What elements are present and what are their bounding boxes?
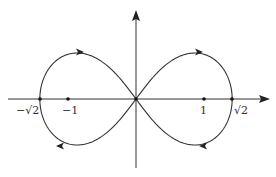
label-pos-sqrt2: √2 <box>234 104 248 117</box>
left-loop-bottom-arrow-icon <box>56 143 64 150</box>
point-neg-one <box>66 97 70 101</box>
label-neg-sqrt2: −√2 <box>16 104 39 117</box>
point-pos-one <box>202 97 206 101</box>
left-loop-top-arrow-icon <box>76 49 84 56</box>
point-origin <box>134 97 138 101</box>
label-neg-one: −1 <box>62 104 78 117</box>
right-loop-top-arrow-icon <box>195 49 203 56</box>
point-pos-sqrt2 <box>230 97 234 101</box>
point-neg-sqrt2 <box>38 97 42 101</box>
label-pos-one: 1 <box>200 104 207 117</box>
lemniscate-diagram: −√2 −1 1 √2 <box>0 0 276 177</box>
diagram-canvas: −√2 −1 1 √2 <box>0 0 276 177</box>
